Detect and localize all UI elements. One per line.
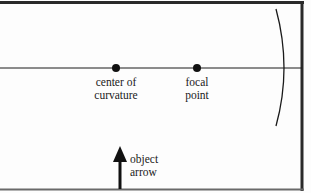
focal-point-dot [193,64,201,72]
focal-point-label-line2: point [177,89,217,102]
center-of-curvature-label: center of curvature [86,76,146,102]
ray-diagram-canvas: center of curvature focal point object a… [0,0,311,193]
object-arrow-label-line2: arrow [130,166,158,179]
center-of-curvature-label-line2: curvature [86,89,146,102]
focal-point-label-line1: focal [177,76,217,89]
focal-point-label: focal point [177,76,217,102]
center-of-curvature-dot [112,64,120,72]
object-arrow-label: object arrow [130,153,158,179]
object-arrow-label-line1: object [130,153,158,166]
object-arrow-head-icon [113,146,127,162]
center-of-curvature-label-line1: center of [86,76,146,89]
